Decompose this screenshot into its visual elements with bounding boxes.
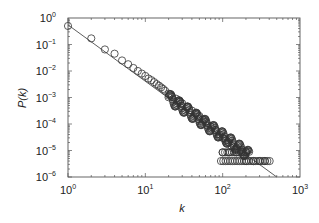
data-points: [64, 22, 273, 164]
y-tick-label: 10−2: [36, 64, 56, 77]
y-tick-label: 10−3: [36, 91, 56, 104]
x-tick-labels: 100101102103: [60, 183, 308, 196]
y-axis-label: P(k): [16, 88, 28, 109]
x-tick-label: 101: [137, 183, 153, 196]
y-tick-label: 10−5: [36, 144, 56, 157]
y-tick-label: 100: [40, 11, 56, 24]
x-axis-label: k: [179, 202, 185, 214]
chart: 10010−110−210−310−410−510−6 100101102103…: [0, 0, 319, 223]
x-tick-label: 102: [215, 183, 231, 196]
axis-ticks: [68, 18, 300, 177]
data-point: [111, 50, 118, 57]
data-point: [125, 61, 132, 68]
y-tick-labels: 10010−110−210−310−410−510−6: [36, 11, 56, 183]
x-tick-label: 103: [292, 183, 308, 196]
data-point: [88, 35, 95, 42]
plot-frame: [68, 18, 300, 177]
y-tick-label: 10−1: [36, 38, 56, 51]
x-tick-label: 100: [60, 183, 76, 196]
y-tick-label: 10−6: [36, 170, 56, 183]
y-tick-label: 10−4: [36, 117, 56, 130]
